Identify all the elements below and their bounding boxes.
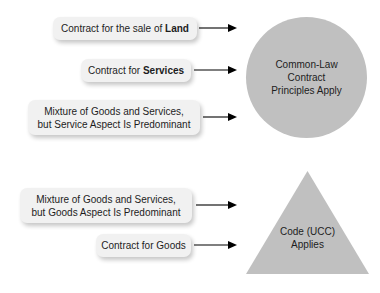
label-text-emphasis: Services (143, 65, 184, 76)
label-box-mixture-goods-predominant: Mixture of Goods and Services, but Goods… (20, 188, 192, 223)
label-line-1: Mixture of Goods and Services, (36, 193, 176, 206)
label-box-contract-for-services: Contract for Services (81, 59, 191, 82)
label-line-1: Mixture of Goods and Services, (44, 105, 184, 118)
label-box-contract-sale-of-land: Contract for the sale of Land (53, 17, 197, 40)
contract-law-flow-diagram: Contract for the sale of Land Contract f… (0, 0, 380, 293)
label-box-text: Contract for Services (88, 64, 184, 77)
label-box-mixture-service-predominant: Mixture of Goods and Services, but Servi… (28, 100, 200, 135)
circle-label-line-2: Contract (246, 71, 367, 84)
label-box-text: Contract for Goods (101, 239, 185, 252)
label-box-text: Mixture of Goods and Services, but Goods… (32, 193, 181, 219)
label-line: Contract for Services (88, 64, 184, 77)
label-text-plain: Contract for the sale of (61, 23, 165, 34)
label-box-contract-for-goods: Contract for Goods (96, 234, 191, 257)
circle-label-line-3: Principles Apply (246, 84, 367, 97)
triangle-label: Code (UCC) Applies (246, 225, 369, 251)
arrow-mixture-goods-to-triangle (196, 200, 237, 210)
label-text-emphasis: Land (165, 23, 189, 34)
label-line-2: but Goods Aspect Is Predominant (32, 206, 181, 219)
arrow-mixture-service-to-circle (203, 112, 237, 122)
triangle-label-line-2: Applies (246, 238, 369, 251)
outcome-triangle-ucc: Code (UCC) Applies (246, 171, 369, 274)
arrow-goods-to-triangle (194, 240, 237, 250)
label-line: Contract for the sale of Land (61, 22, 189, 35)
triangle-label-line-1: Code (UCC) (246, 225, 369, 238)
circle-label: Common-Law Contract Principles Apply (246, 58, 367, 98)
circle-label-line-1: Common-Law (246, 58, 367, 71)
label-line-2: but Service Aspect Is Predominant (38, 118, 191, 131)
arrow-land-to-circle (199, 23, 237, 33)
arrow-services-to-circle (194, 65, 237, 75)
label-text-plain: Contract for (88, 65, 143, 76)
outcome-circle-common-law: Common-Law Contract Principles Apply (246, 17, 367, 138)
label-box-text: Mixture of Goods and Services, but Servi… (38, 105, 191, 131)
label-box-text: Contract for the sale of Land (61, 22, 189, 35)
label-line: Contract for Goods (101, 239, 185, 252)
